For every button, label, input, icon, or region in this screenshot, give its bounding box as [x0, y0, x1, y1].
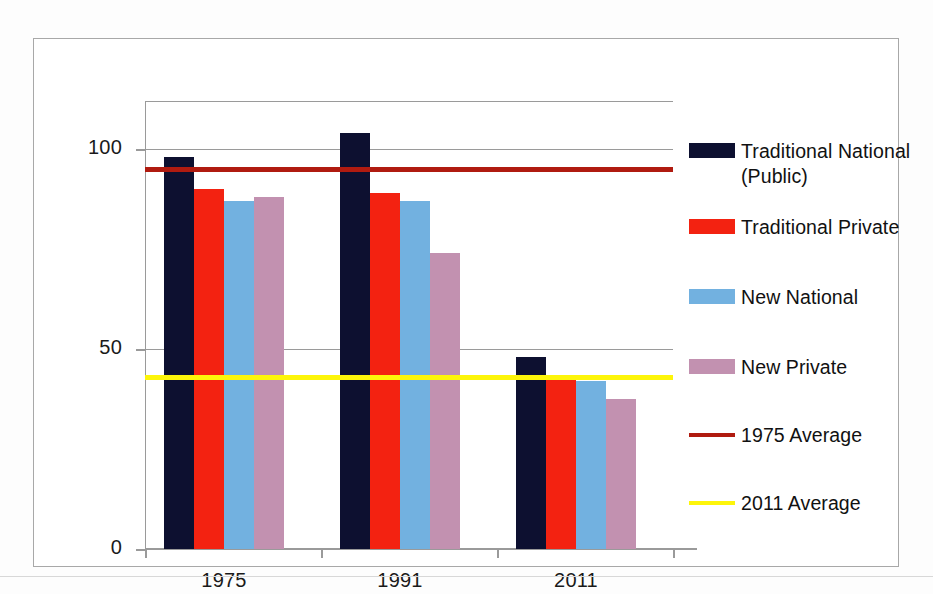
bar: [516, 357, 546, 549]
legend-item-label: Traditional National (Public): [741, 139, 910, 189]
legend-swatch-icon: [689, 433, 735, 437]
reference-line-2011-average: [145, 375, 673, 380]
legend-item-label: 2011 Average: [741, 491, 861, 516]
legend-item-label: New National: [741, 285, 858, 310]
x-axis-label-1991: 1991: [340, 570, 460, 590]
y-axis-label-50: 50: [50, 337, 122, 357]
legend-item-label: 1975 Average: [741, 423, 862, 448]
y-axis-tick-0: [136, 549, 145, 551]
legend-swatch-icon: [689, 289, 735, 304]
legend-item: New Private: [689, 355, 847, 380]
legend-item: 2011 Average: [689, 491, 861, 516]
bar: [576, 381, 606, 549]
bar: [164, 157, 194, 549]
x-axis-tick-1991: [321, 549, 323, 558]
x-axis-label-2011: 2011: [516, 570, 636, 590]
legend-item: Traditional Private: [689, 215, 899, 240]
reference-line-1975-average: [145, 167, 673, 172]
legend-item: New National: [689, 285, 858, 310]
x-axis-tick-1975: [145, 549, 147, 558]
y-axis-label-0: 0: [50, 537, 122, 557]
legend-swatch-icon: [689, 143, 735, 158]
legend-item: 1975 Average: [689, 423, 862, 448]
legend-item-label: New Private: [741, 355, 847, 380]
legend-item-label: Traditional Private: [741, 215, 899, 240]
legend-swatch-icon: [689, 501, 735, 505]
figure-page: 050100 197519912011 Traditional National…: [0, 0, 933, 594]
bar: [546, 377, 576, 549]
x-axis-tick-2011: [497, 549, 499, 558]
chart-frame: 050100 197519912011 Traditional National…: [33, 38, 899, 567]
bar: [370, 193, 400, 549]
x-axis-tick-end: [673, 549, 675, 558]
plot-area: 050100 197519912011: [145, 101, 673, 549]
x-axis-label-1975: 1975: [164, 570, 284, 590]
y-axis-tick-50: [136, 349, 145, 351]
bar: [254, 197, 284, 549]
bar: [606, 399, 636, 549]
bar: [340, 133, 370, 549]
y-axis-tick-100: [136, 149, 145, 151]
bar: [430, 253, 460, 549]
y-axis-label-100: 100: [50, 137, 122, 157]
page-divider-rule: [0, 576, 933, 577]
bar: [194, 189, 224, 549]
gridline-100: [145, 149, 673, 150]
legend-swatch-icon: [689, 359, 735, 374]
legend-swatch-icon: [689, 219, 735, 234]
legend-item: Traditional National (Public): [689, 139, 910, 189]
